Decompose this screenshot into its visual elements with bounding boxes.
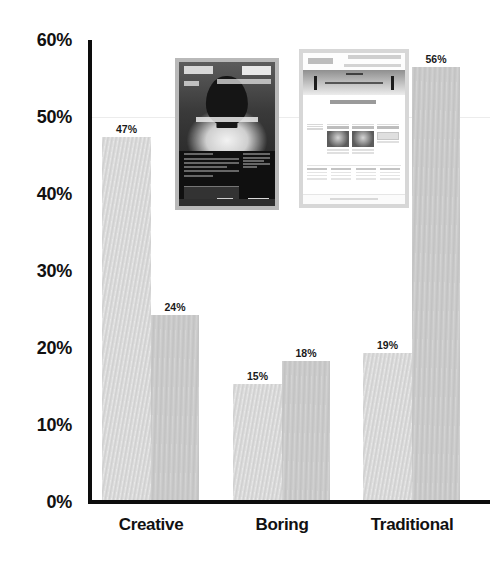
dark-site-lower-section <box>179 151 275 206</box>
dark-site-search-box <box>242 66 271 75</box>
bar-value-creative-b: 24% <box>164 302 185 313</box>
bar-boring-series-a[interactable]: 15% <box>233 384 282 500</box>
light-site-logo <box>308 58 332 64</box>
light-site-card-2 <box>352 124 373 161</box>
y-axis-labels: 60% 50% 40% 30% 20% 10% 0% <box>6 0 72 562</box>
dark-site-page <box>179 62 275 206</box>
light-site-footer-col-2 <box>331 168 351 190</box>
bar-value-creative-a: 47% <box>116 124 137 135</box>
light-site-footer-columns <box>307 165 401 192</box>
dark-site-tagline <box>196 117 257 122</box>
light-site-card-row <box>327 124 400 160</box>
light-website-screenshot <box>299 49 409 208</box>
bar-creative-series-a[interactable]: 47% <box>102 137 151 500</box>
bar-value-boring-b: 18% <box>295 348 316 359</box>
bar-chart: 60% 50% 40% 30% 20% 10% 0% 47% 24% 15% 1… <box>0 0 501 562</box>
y-tick-40: 40% <box>6 185 72 203</box>
light-site-sidebar <box>307 124 323 157</box>
light-site-footer-col-3 <box>356 168 376 190</box>
light-site-body-text <box>330 107 383 108</box>
bar-boring-series-b[interactable]: 18% <box>282 361 330 500</box>
light-site-footer-bar <box>303 194 405 204</box>
light-site-thumbnail-photo <box>352 131 373 147</box>
light-site-nav <box>344 64 401 68</box>
light-site-portrait-photo <box>327 131 348 147</box>
light-site-banner-title <box>346 73 363 75</box>
x-axis-line <box>88 500 490 504</box>
light-site-page <box>303 53 405 204</box>
bar-value-boring-a: 15% <box>247 371 268 382</box>
y-tick-10: 10% <box>6 416 72 434</box>
dark-site-nav <box>217 79 271 83</box>
dark-website-screenshot <box>175 58 279 210</box>
dark-site-hero <box>179 62 275 151</box>
dark-site-social-icons <box>184 81 199 87</box>
light-site-card-3 <box>377 124 398 161</box>
bar-traditional-series-a[interactable]: 19% <box>363 353 412 500</box>
plot-area: 47% 24% 15% 18% 19% 56% <box>88 40 490 504</box>
light-site-banner-pen-left <box>314 76 317 89</box>
x-label-boring: Boring <box>256 516 309 533</box>
y-axis-line <box>88 40 92 504</box>
bar-creative-series-b[interactable]: 24% <box>151 315 199 500</box>
light-site-cta-button <box>377 132 398 139</box>
y-tick-20: 20% <box>6 339 72 357</box>
light-site-banner-subtitle <box>325 82 382 84</box>
y-tick-60: 60% <box>6 31 72 49</box>
dark-site-footer <box>179 199 275 206</box>
light-site-heading <box>330 100 377 104</box>
y-tick-0: 0% <box>6 493 72 511</box>
x-label-creative: Creative <box>119 516 184 533</box>
dark-site-side-column <box>243 153 270 203</box>
y-tick-30: 30% <box>6 262 72 280</box>
x-label-traditional: Traditional <box>371 516 454 533</box>
dark-site-logo <box>184 66 213 73</box>
light-site-footer-col-4 <box>380 168 400 190</box>
light-site-top-links <box>348 55 401 59</box>
bar-value-traditional-a: 19% <box>377 340 398 351</box>
light-site-banner-pen-right <box>391 76 394 89</box>
y-tick-50: 50% <box>6 108 72 126</box>
light-site-card-1 <box>327 124 348 161</box>
light-site-footer-col-1 <box>307 168 327 190</box>
bar-value-traditional-b: 56% <box>425 54 446 65</box>
bar-traditional-series-b[interactable]: 56% <box>412 67 460 500</box>
light-site-banner <box>303 70 405 96</box>
